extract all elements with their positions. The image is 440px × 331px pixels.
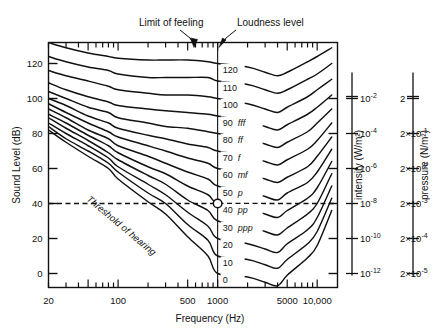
equal-loudness-contour-chart: 020406080100120 201005001000500010,000 1… (0, 0, 440, 331)
svg-text:2: 2 (400, 93, 405, 104)
curve-label-70: 70f (221, 152, 263, 163)
curve-label-level: 80 (223, 135, 233, 145)
curve-label-level: 20 (223, 240, 233, 250)
curve-label-dynamic: ppp (237, 223, 253, 233)
x-tick-label: 500 (180, 295, 196, 306)
curve-label-level: 10 (223, 258, 233, 268)
x-tick-label: 1000 (207, 295, 228, 306)
y-tick-label: 80 (32, 128, 43, 139)
x-tick-label: 5000 (277, 295, 298, 306)
curve-label-level: 30 (223, 223, 233, 233)
curve-label-60: 60mf (221, 169, 263, 180)
y-tick-label: 120 (27, 58, 43, 69)
curve-label-10: 10 (221, 257, 245, 268)
x-tick-label: 100 (110, 295, 126, 306)
curve-label-level: 100 (223, 100, 238, 110)
chart-canvas: 020406080100120 201005001000500010,000 1… (0, 0, 440, 331)
reference-marker (213, 199, 222, 208)
curve-label-110: 110 (221, 82, 245, 93)
curve-label-0: 0 (221, 274, 245, 285)
x-tick-label: 20 (43, 295, 54, 306)
curve-label-dynamic: mf (238, 170, 249, 180)
limit-of-feeling-annotation: Limit of feeling (139, 17, 203, 28)
curve-label-40: 40pp (221, 204, 263, 215)
reference-marker-1000hz-40db (213, 199, 222, 208)
y-tick-label: 40 (32, 198, 43, 209)
y-tick-label: 0 (37, 268, 42, 279)
y-axis-title: Sound Level (dB) (11, 126, 22, 203)
curve-label-50: 50p (221, 187, 263, 198)
curve-label-level: 120 (223, 65, 238, 75)
y-tick-label: 60 (32, 163, 43, 174)
curve-label-30: 30ppp (221, 222, 263, 233)
intensity-axis-title: intensity (W/m²) (353, 130, 364, 200)
curve-label-level: 40 (223, 205, 233, 215)
curve-label-level: 70 (223, 153, 233, 163)
pressure-axis-title: pressure (N/m²) (419, 130, 430, 200)
curve-label-level: 0 (223, 275, 228, 285)
curve-label-120: 120 (221, 64, 245, 75)
x-axis-title: Frequency (Hz) (176, 313, 245, 324)
loudness-level-annotation: Loudness level (237, 17, 304, 28)
curve-label-dynamic: pp (237, 205, 248, 215)
curve-label-90: 90fff (221, 117, 263, 128)
curve-label-80: 80ff (221, 134, 263, 145)
curve-label-20: 20 (221, 239, 245, 250)
pressure-axis-tick-label: 2 (400, 93, 405, 104)
y-tick-label: 100 (27, 93, 43, 104)
curve-label-dynamic: p (237, 188, 243, 198)
y-tick-label: 20 (32, 233, 43, 244)
curve-label-level: 50 (223, 188, 233, 198)
curve-label-100: 100 (221, 99, 245, 110)
curve-label-level: 60 (223, 170, 233, 180)
curve-label-level: 110 (223, 83, 237, 93)
x-tick-label: 10,000 (303, 295, 332, 306)
curve-label-level: 90 (223, 118, 233, 128)
